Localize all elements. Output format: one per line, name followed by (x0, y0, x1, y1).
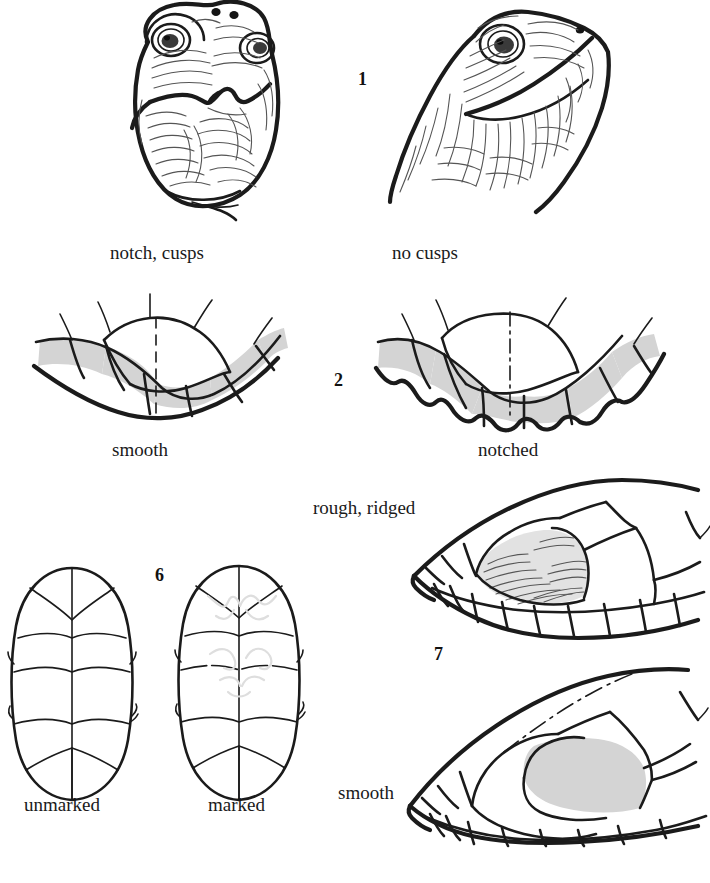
figure-marginal-scutes-smooth (22, 292, 292, 432)
figure-plastron-unmarked (8, 562, 138, 812)
carapace-smooth-svg (368, 646, 710, 846)
couplet-number-6: 6 (155, 566, 164, 584)
figure-carapace-rough-ridged (368, 480, 710, 650)
couplet-number-1: 1 (358, 70, 367, 88)
label-no-cusps: no cusps (392, 243, 458, 262)
marginal-smooth-svg (22, 292, 292, 432)
figure-carapace-smooth (368, 646, 710, 846)
couplet-number-2: 2 (334, 371, 343, 389)
carapace-rough-svg (368, 480, 710, 650)
label-notch-cusps: notch, cusps (110, 243, 204, 262)
label-marked: marked (208, 795, 265, 814)
plastron-markings (208, 596, 276, 697)
label-smooth-jaw: smooth (112, 440, 168, 459)
turtle-head-front-svg (88, 0, 293, 231)
plastron-unmarked-svg (8, 562, 138, 812)
plastron-marked-svg (172, 560, 308, 812)
label-notched-jaw: notched (478, 440, 538, 459)
label-unmarked: unmarked (24, 795, 100, 814)
figure-turtle-head-oblique-plain (378, 0, 613, 233)
marginal-notched-svg (372, 292, 668, 432)
figure-plastron-marked (172, 560, 308, 812)
figure-turtle-head-front-notched (88, 0, 293, 231)
figure-marginal-scutes-notched (372, 292, 668, 432)
turtle-head-oblique-svg (378, 0, 613, 233)
